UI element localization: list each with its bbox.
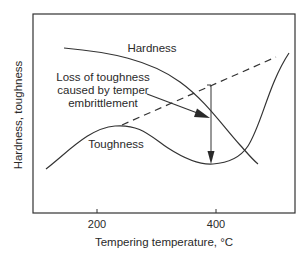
- arrowhead-down-icon: [208, 151, 215, 164]
- annotation-line-2: caused by temper: [57, 84, 149, 96]
- annotation-line-3: embrittlement: [68, 97, 138, 109]
- temper-embrittlement-diagram: Hardness Toughness Loss of toughness cau…: [0, 0, 308, 260]
- annotation-pointer-arrow: [147, 94, 200, 114]
- arrowhead-icon: [194, 109, 210, 119]
- hardness-label: Hardness: [127, 42, 176, 54]
- x-tick-label-200: 200: [88, 218, 106, 230]
- toughness-label: Toughness: [88, 138, 144, 150]
- y-axis-label: Hardness, toughness: [12, 60, 24, 169]
- x-tick-label-400: 400: [207, 218, 225, 230]
- x-axis-label: Tempering temperature, °C: [95, 236, 233, 248]
- annotation-line-1: Loss of toughness: [56, 71, 150, 83]
